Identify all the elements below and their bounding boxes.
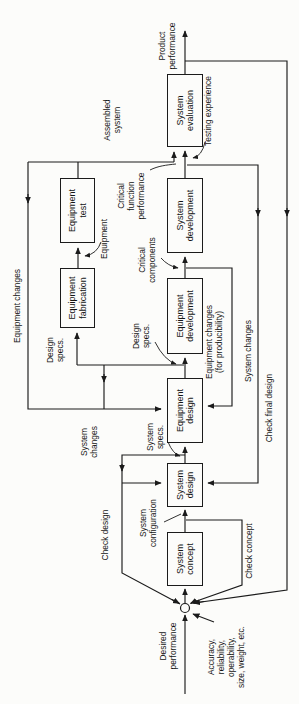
system-design-box: System design xyxy=(167,463,203,507)
assembled-system-label: Assembled system xyxy=(103,90,123,150)
equipment-test-box: Equipment test xyxy=(60,178,95,243)
equipment-changes-producibility-label: Equipment changes (for producibility) xyxy=(205,288,225,396)
system-changes-right-label: System changes xyxy=(244,308,254,394)
system-specs-label: System specs. xyxy=(146,416,166,458)
equipment-fabrication-box: Equipment fabrication xyxy=(60,268,95,328)
equipment-development-box: Equipment development xyxy=(167,278,203,354)
equipment-design-box: Equipment design xyxy=(167,378,203,443)
desired-performance-label: Desired performance xyxy=(159,612,179,680)
check-final-design-label: Check final design xyxy=(265,358,275,458)
system-evaluation-box: System evaluation xyxy=(167,74,203,147)
design-specs-fabrication-label: Design specs. xyxy=(46,328,66,372)
critical-components-label: Critical components xyxy=(138,230,158,290)
requirements-label: Accuracy, reliability, operability, size… xyxy=(207,610,247,704)
check-concept-label: Check concept xyxy=(245,512,255,590)
system-development-box: System development xyxy=(167,178,203,253)
system-changes-left-label: System changes xyxy=(80,420,100,464)
equipment-flow-label: Equipment xyxy=(100,210,110,268)
system-configuration-label: System configuration xyxy=(139,492,159,554)
equipment-changes-label: Equipment changes xyxy=(13,254,23,358)
design-specs-development-label: Design specs. xyxy=(132,316,152,356)
summing-junction-node xyxy=(181,604,190,613)
check-design-label: Check design xyxy=(101,500,111,570)
testing-experience-label: Testing experience xyxy=(204,64,214,158)
flowchart-canvas: System concept System design Equipment d… xyxy=(0,0,299,704)
scanned-flowchart-page: System concept System design Equipment d… xyxy=(0,0,299,704)
product-performance-label: Product performance xyxy=(158,10,178,82)
critical-function-performance-label: Critical function performance xyxy=(117,165,147,227)
system-concept-box: System concept xyxy=(167,532,203,586)
